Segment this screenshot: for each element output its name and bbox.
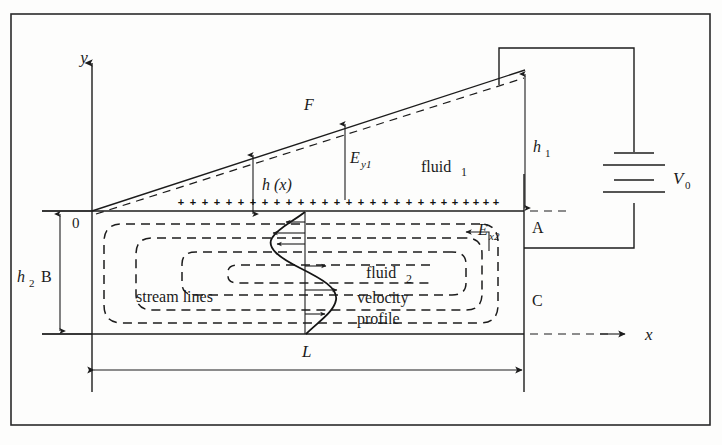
e-x2-label-group: E x2 (477, 221, 500, 242)
svg-text:+: + (463, 196, 469, 208)
e-y1-subscript: y1 (360, 158, 371, 170)
fluid-2-number: 2 (406, 272, 412, 286)
point-B-label: B (41, 268, 52, 285)
figure-container: ++ ++ ++ ++ ++ ++ ++ ++ ++ ++ ++ ++ ++ +… (0, 0, 722, 445)
svg-text:+: + (310, 196, 316, 208)
streamline-core (228, 265, 430, 283)
svg-text:+: + (370, 196, 376, 208)
h2-label-group: h 2 (17, 268, 35, 289)
interface-F-label: F (303, 96, 314, 113)
svg-text:+: + (190, 196, 196, 208)
circuit-wire-top (499, 48, 634, 152)
velocity-profile-curve (271, 212, 337, 334)
velocity-label: velocity (357, 289, 409, 307)
svg-text:+: + (250, 196, 256, 208)
svg-text:+: + (418, 196, 424, 208)
streamline-inner (182, 252, 466, 295)
e-x2-label: E (477, 221, 488, 238)
fluid-1-label-group: fluid 1 (421, 158, 467, 179)
voltage-label-group: V 0 (673, 169, 691, 191)
L-label: L (301, 342, 311, 361)
e-y1-label: E (349, 149, 360, 166)
svg-text:+: + (406, 196, 412, 208)
svg-text:+: + (483, 196, 489, 208)
svg-text:+: + (214, 196, 220, 208)
physics-diagram-svg: ++ ++ ++ ++ ++ ++ ++ ++ ++ ++ ++ ++ ++ +… (0, 0, 722, 445)
svg-text:+: + (441, 196, 447, 208)
svg-text:+: + (178, 196, 184, 208)
fluid-2-label-group: fluid 2 (366, 264, 412, 286)
streamline-outer (104, 224, 498, 323)
h-of-x-label: h (x) (262, 176, 292, 194)
h1-label-group: h 1 (533, 138, 551, 159)
svg-text:+: + (202, 196, 208, 208)
x-axis-label: x (644, 325, 653, 344)
svg-text:+: + (238, 196, 244, 208)
surface-charge-row: ++ ++ ++ ++ ++ ++ ++ ++ ++ ++ ++ ++ ++ +… (178, 196, 499, 208)
point-A-label: A (532, 219, 544, 236)
svg-text:+: + (322, 196, 328, 208)
svg-text:+: + (298, 196, 304, 208)
svg-text:+: + (430, 196, 436, 208)
svg-text:+: + (382, 196, 388, 208)
svg-text:+: + (226, 196, 232, 208)
h2-label: h (17, 268, 25, 285)
svg-text:+: + (262, 196, 268, 208)
profile-label: profile (357, 310, 400, 328)
fluid-1-label: fluid (421, 158, 451, 175)
streamlines-label: stream lines (136, 288, 213, 305)
h1-label: h (533, 138, 541, 155)
svg-text:+: + (346, 196, 352, 208)
svg-text:+: + (394, 196, 400, 208)
fluid-1-number: 1 (461, 165, 467, 179)
voltage-subscript: 0 (685, 179, 691, 191)
h2-subscript: 2 (29, 277, 35, 289)
y-axis-label: y (78, 48, 88, 67)
origin-label: 0 (72, 215, 80, 231)
figure-border (11, 14, 710, 425)
free-surface-line (92, 70, 525, 211)
h1-subscript: 1 (545, 147, 551, 159)
e-y1-label-group: E y1 (349, 149, 371, 170)
svg-text:+: + (358, 196, 364, 208)
svg-text:+: + (286, 196, 292, 208)
svg-text:+: + (493, 196, 499, 208)
point-C-label: C (532, 292, 543, 309)
svg-text:+: + (274, 196, 280, 208)
svg-text:+: + (473, 196, 479, 208)
e-x2-subscript: x2 (488, 230, 500, 242)
svg-text:+: + (334, 196, 340, 208)
fluid-2-label: fluid (366, 264, 396, 281)
svg-text:+: + (452, 196, 458, 208)
